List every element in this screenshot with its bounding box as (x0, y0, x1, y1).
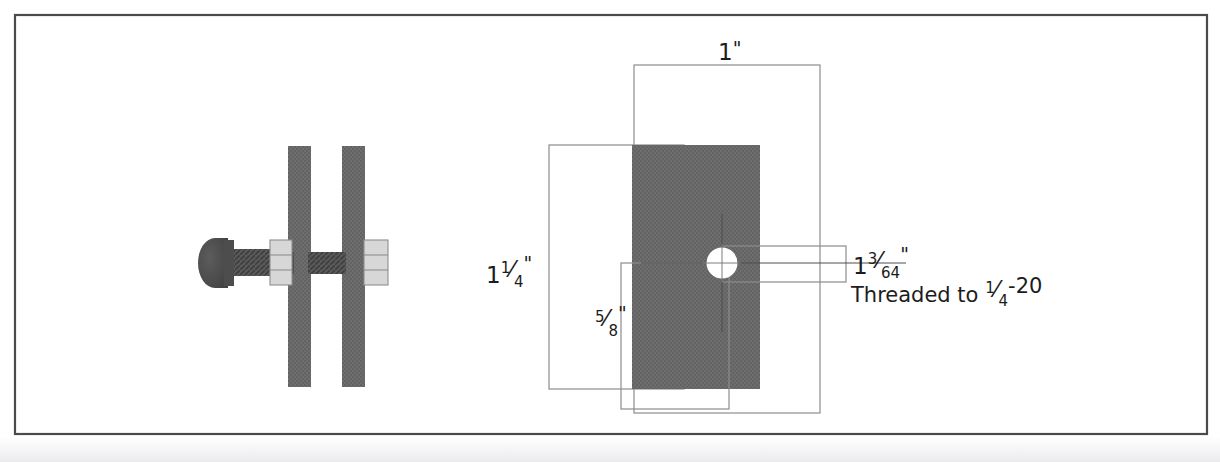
dim-edge-unit: " (618, 302, 627, 324)
dim-height-numerator: 1 (501, 259, 511, 277)
nut-right (364, 240, 388, 285)
dimension-label-width-1-inch: 1" (718, 37, 741, 65)
plate-body (632, 145, 760, 389)
dim-hole-denominator: 64 (881, 264, 900, 282)
bolt-head (198, 238, 228, 288)
assembly-view-group (198, 146, 388, 387)
note-suffix: -20 (1008, 274, 1042, 298)
dim-height-whole: 1 (486, 262, 501, 288)
svg-text:11⁄4": 11⁄4" (486, 252, 532, 291)
dim-edge-denominator: 8 (608, 322, 618, 340)
page-frame-border (15, 15, 1207, 434)
note-denominator: 4 (999, 292, 1009, 310)
note-numerator: 1 (985, 279, 995, 297)
svg-text:5⁄8": 5⁄8" (595, 302, 627, 340)
dim-width-whole: 1 (718, 39, 733, 65)
dim-hole-numerator: 3 (868, 250, 878, 268)
note-prefix: Threaded to (850, 283, 985, 307)
dimension-label-edge-5-8-inch: 5⁄8" (595, 302, 627, 340)
dim-height-denominator: 4 (514, 273, 524, 291)
dim-width-unit: " (733, 37, 742, 59)
svg-text:1": 1" (718, 37, 741, 65)
dim-edge-numerator: 5 (595, 308, 605, 326)
dim-height-unit: " (524, 252, 533, 274)
technical-drawing-canvas: 1" 11⁄4" 5⁄8" 13⁄64" Threaded to 1⁄4-20 (0, 0, 1220, 462)
dimension-label-hole-1-3-64-inch: 13⁄64" (853, 243, 909, 282)
svg-text:13⁄64": 13⁄64" (853, 243, 909, 282)
dim-hole-whole: 1 (853, 253, 868, 279)
drawing-svg-canvas: 1" 11⁄4" 5⁄8" 13⁄64" Threaded to 1⁄4-20 (0, 0, 1220, 462)
dimension-label-height-1-1-4-inch: 11⁄4" (486, 252, 532, 291)
note-thread-spec: Threaded to 1⁄4-20 (850, 274, 1042, 310)
dim-hole-unit: " (900, 243, 909, 265)
svg-text:Threaded to 1⁄4-20: Threaded to 1⁄4-20 (850, 274, 1042, 310)
nut-left (270, 240, 292, 285)
bolt-shank-inner (308, 252, 346, 274)
plate-view-group (549, 65, 906, 413)
bolt-head-neck (224, 240, 234, 286)
